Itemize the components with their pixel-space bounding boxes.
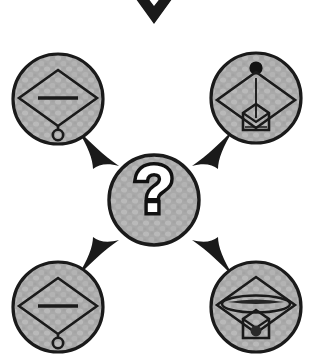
node-bottom-left[interactable] [13,262,103,352]
filled-dot-icon [251,326,262,337]
node-top-left[interactable] [13,54,103,144]
diagram-svg: ? [0,0,309,361]
node-bottom-right[interactable] [211,262,301,352]
node-top-right[interactable] [211,53,301,143]
question-mark-glyph: ? [134,152,174,226]
node-center[interactable]: ? [109,152,199,245]
diagram-canvas: ? Unknown central node with four connect… [0,0,309,361]
question-mark-icon: ? [134,152,174,226]
